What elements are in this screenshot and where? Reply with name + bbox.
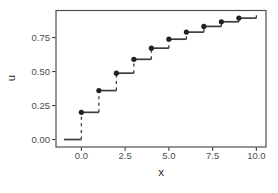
x-tick-label: 0.0 [75, 150, 88, 161]
data-point [96, 88, 101, 93]
data-point [236, 16, 241, 21]
data-point [79, 110, 84, 115]
data-point [219, 19, 224, 24]
y-tick-label: 0.50 [32, 66, 51, 77]
x-tick-label: 7.5 [206, 150, 219, 161]
y-axis-title: u [1, 69, 21, 87]
x-axis-title: x [56, 166, 266, 178]
data-point [131, 57, 136, 62]
data-point [201, 24, 206, 29]
y-tick-label: 0.00 [32, 134, 51, 145]
y-tick-label: 0.75 [32, 32, 51, 43]
data-point [184, 30, 189, 35]
x-tick-label: 10.0 [247, 150, 266, 161]
data-point [114, 71, 119, 76]
chart-canvas: 0.02.55.07.510.00.000.250.500.75 [0, 0, 278, 193]
step-chart-figure: 0.02.55.07.510.00.000.250.500.75 x u [0, 0, 278, 193]
x-tick-label: 2.5 [119, 150, 132, 161]
data-point [149, 46, 154, 51]
data-point [166, 37, 171, 42]
x-tick-label: 5.0 [162, 150, 175, 161]
y-tick-label: 0.25 [32, 100, 51, 111]
plot-panel-border [56, 11, 266, 148]
